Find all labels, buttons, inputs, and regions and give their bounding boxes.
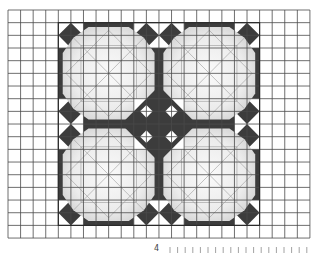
page-number: 4	[154, 244, 159, 254]
graph-paper-drawing	[0, 0, 316, 255]
ruler-ticks	[170, 247, 307, 253]
grid-lines	[8, 10, 310, 238]
